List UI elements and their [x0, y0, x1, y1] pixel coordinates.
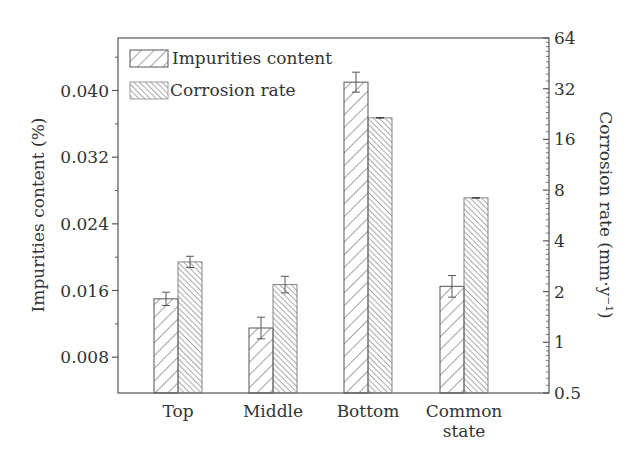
left-tick-label: 0.008 [60, 347, 109, 367]
bar-impurities [440, 286, 464, 393]
right-tick-label: 32 [554, 79, 576, 99]
bar-corrosion [368, 118, 392, 393]
legend-swatch-corrosion [130, 82, 168, 99]
right-tick-label: 64 [554, 28, 576, 48]
x-category-label: Common [426, 401, 503, 421]
right-tick-label: 2 [554, 282, 565, 302]
legend-label-impurities: Impurities content [172, 48, 332, 68]
chart: 0.0080.0160.0240.0320.040 0.51248163264 … [0, 0, 630, 459]
bar-impurities [344, 82, 368, 393]
legend: Impurities content Corrosion rate [130, 48, 332, 100]
x-category-label: Bottom [337, 401, 400, 421]
bar-corrosion [273, 285, 297, 393]
legend-label-corrosion: Corrosion rate [170, 80, 296, 100]
x-category-label: Top [162, 401, 193, 421]
right-tick-label: 4 [554, 231, 565, 251]
bars [154, 72, 488, 393]
x-category-label: state [443, 421, 486, 441]
right-axis-title: Corrosion rate (mm·y⁻¹) [596, 111, 616, 318]
left-axis-title: Impurities content (%) [28, 118, 48, 313]
x-axis-labels: TopMiddleBottomCommonstate [162, 401, 502, 441]
x-category-label: Middle [243, 401, 303, 421]
right-tick-label: 0.5 [554, 383, 581, 403]
bar-impurities [154, 299, 178, 393]
right-tick-label: 16 [554, 129, 576, 149]
left-tick-label: 0.032 [60, 147, 109, 167]
right-tick-label: 8 [554, 180, 565, 200]
left-tick-label: 0.016 [60, 281, 109, 301]
legend-swatch-impurities [130, 50, 168, 67]
bar-corrosion [178, 262, 202, 393]
left-y-axis: 0.0080.0160.0240.0320.040 [60, 57, 118, 367]
right-tick-label: 1 [554, 332, 565, 352]
bar-corrosion [464, 198, 488, 393]
left-tick-label: 0.024 [60, 214, 109, 234]
left-tick-label: 0.040 [60, 81, 109, 101]
